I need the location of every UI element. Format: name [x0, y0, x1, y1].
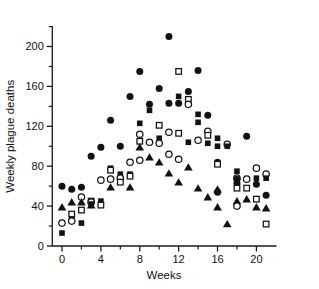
point-open-circle	[243, 176, 249, 182]
point-filled-circle	[136, 68, 143, 75]
point-open-circle	[127, 159, 133, 165]
point-open-circle	[175, 156, 181, 162]
point-filled-triangle	[242, 195, 251, 202]
x-tick-label: 20	[250, 253, 262, 265]
x-tick-labels: 048121620	[59, 253, 263, 265]
point-filled-triangle	[145, 153, 154, 160]
point-filled-triangle	[106, 183, 115, 190]
point-filled-circle	[243, 133, 250, 140]
point-filled-circle	[146, 101, 153, 108]
point-filled-square	[176, 94, 182, 100]
point-filled-square	[195, 112, 201, 118]
point-filled-square	[186, 139, 192, 145]
x-tick-label: 4	[98, 253, 104, 265]
point-filled-circle	[165, 100, 172, 107]
point-filled-circle	[59, 183, 66, 190]
point-open-square	[69, 211, 75, 217]
point-open-circle	[146, 139, 152, 145]
point-open-square	[215, 161, 221, 167]
point-open-square	[244, 185, 250, 191]
point-filled-square	[263, 175, 269, 181]
y-tick-label: 80	[32, 160, 44, 172]
point-filled-circle	[204, 112, 211, 119]
point-open-circle	[107, 176, 113, 182]
point-filled-triangle	[67, 198, 76, 205]
point-filled-triangle	[58, 203, 67, 210]
point-open-square	[137, 138, 143, 144]
tick-marks-group	[47, 27, 257, 252]
point-open-square	[156, 123, 162, 129]
point-filled-circle	[78, 184, 85, 191]
point-filled-square	[59, 230, 65, 236]
point-open-square	[118, 179, 124, 185]
point-filled-square	[254, 175, 260, 181]
axis-spines	[52, 27, 276, 246]
point-open-circle	[98, 177, 104, 183]
point-filled-circle	[195, 67, 202, 74]
point-open-square	[263, 221, 269, 227]
point-filled-square	[205, 140, 211, 146]
point-open-circle	[166, 151, 172, 157]
point-filled-triangle	[262, 204, 271, 211]
y-tick-label: 120	[25, 120, 43, 132]
x-tick-label: 0	[59, 253, 65, 265]
y-tick-labels: 04080120160200	[25, 40, 43, 252]
point-filled-triangle	[174, 178, 183, 185]
point-filled-circle	[214, 189, 221, 196]
point-filled-circle	[175, 100, 182, 107]
plague-deaths-scatter-figure: 048121620 04080120160200 Weeks Weekly pl…	[0, 0, 319, 289]
point-filled-circle	[107, 117, 114, 124]
y-tick-label: 200	[25, 40, 43, 52]
point-filled-circle	[127, 93, 134, 100]
point-open-circle	[137, 157, 143, 163]
x-axis-title: Weeks	[147, 269, 182, 281]
point-filled-triangle	[184, 163, 193, 170]
point-filled-square	[137, 121, 143, 127]
axes-group	[52, 27, 276, 246]
point-open-square	[79, 207, 85, 213]
point-filled-circle	[185, 88, 192, 95]
x-tick-label: 12	[173, 253, 185, 265]
point-filled-triangle	[252, 203, 261, 210]
data-points-group	[58, 33, 271, 236]
y-tick-label: 40	[32, 200, 44, 212]
point-filled-triangle	[203, 193, 212, 200]
x-tick-label: 8	[137, 253, 143, 265]
point-filled-triangle	[194, 184, 203, 191]
point-open-square	[108, 167, 114, 173]
point-filled-circle	[97, 144, 104, 151]
point-filled-triangle	[213, 203, 222, 210]
point-filled-square	[147, 108, 153, 114]
point-filled-circle	[253, 181, 260, 188]
point-filled-square	[195, 120, 201, 126]
point-open-square	[98, 202, 104, 208]
point-filled-square	[215, 135, 221, 141]
point-open-square	[254, 196, 260, 202]
point-open-circle	[69, 218, 75, 224]
point-open-square	[127, 173, 133, 179]
point-filled-square	[79, 220, 85, 226]
point-filled-circle	[68, 186, 75, 193]
point-filled-circle	[165, 33, 172, 40]
point-filled-triangle	[165, 169, 174, 176]
point-open-square	[176, 69, 182, 75]
point-open-circle	[253, 165, 259, 171]
point-filled-circle	[263, 192, 270, 199]
point-open-circle	[234, 203, 240, 209]
point-open-square	[176, 130, 182, 136]
y-tick-label: 160	[25, 80, 43, 92]
point-open-circle	[195, 137, 201, 143]
point-filled-square	[224, 143, 230, 149]
point-open-circle	[185, 101, 191, 107]
point-open-circle	[156, 140, 162, 146]
point-filled-square	[215, 143, 221, 149]
point-filled-triangle	[155, 158, 164, 165]
point-filled-circle	[156, 85, 163, 92]
point-filled-circle	[88, 153, 95, 160]
x-tick-label: 16	[211, 253, 223, 265]
point-filled-triangle	[223, 220, 232, 227]
y-axis-title: Weekly plague deaths	[4, 80, 16, 193]
point-filled-triangle	[126, 183, 135, 190]
y-tick-label: 0	[38, 240, 44, 252]
scatter-plot-canvas: 048121620 04080120160200 Weeks Weekly pl…	[0, 0, 319, 289]
